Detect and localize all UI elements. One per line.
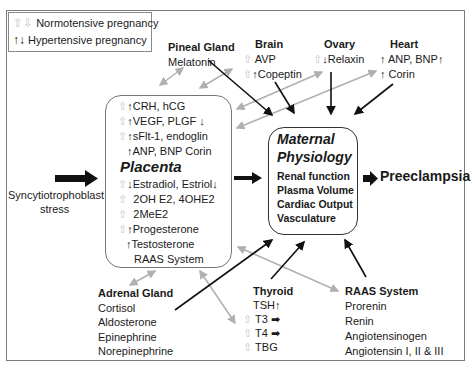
adrenal-cortisol: Cortisol	[98, 302, 135, 315]
hollow-up-arrow-icon: ⇧	[313, 53, 322, 65]
solid-up-arrow-icon: ↑	[380, 53, 386, 65]
stress-label-line2: stress	[40, 203, 69, 216]
preeclampsia-arrow	[363, 171, 378, 186]
maternal-plasma: Plasma Volume	[277, 184, 354, 197]
solid-up-arrow-icon: ↑	[380, 68, 386, 80]
brain-copeptin: ⇧↑Copeptin	[243, 68, 302, 81]
hollow-up-arrow-icon: ⇧	[118, 208, 127, 220]
heart-maternal-arrow	[355, 84, 393, 114]
placenta-vegf-plgf: ⇧↑VEGF, PLGF ↓	[118, 115, 205, 128]
adrenal-aldosterone: Aldosterone	[98, 316, 157, 329]
solid-down-arrow-icon: ↓	[212, 178, 218, 190]
hollow-up-arrow-icon: ⇧	[118, 178, 127, 190]
preeclampsia-label: Preeclampsia	[380, 170, 470, 183]
legend-normotensive: ⇧⇩ Normotensive pregnancy	[13, 17, 158, 29]
hollow-up-arrow-icon: ⇧	[243, 68, 252, 80]
pineal-placenta-arrow	[160, 68, 183, 85]
hollow-up-arrow-icon: ⇧	[118, 193, 127, 205]
maternal-title-1: Maternal	[277, 133, 335, 146]
raas-renin: Renin	[345, 315, 374, 328]
placenta-anp-bnp-corin: ↑ANP, BNP Corin	[127, 145, 212, 158]
heart-corin: ↑ Corin	[380, 68, 415, 81]
adrenal-epinephrine: Epinephrine	[98, 331, 157, 344]
placenta-maternal-arrow	[234, 172, 262, 184]
solid-up-arrow-icon: ↑	[438, 53, 444, 65]
legend: ⇧⇩ Normotensive pregnancy ↑↓ Hypertensiv…	[8, 12, 152, 52]
maternal-renal: Renal function	[277, 170, 350, 183]
adrenal-placenta-arrow	[130, 271, 155, 285]
raas-angiotensin: Angiotensin I, II & III	[345, 345, 443, 358]
hollow-up-arrow-icon: ⇧	[118, 100, 127, 112]
maternal-vasculature: Vasculature	[277, 212, 336, 225]
solid-up-down-arrow-icon: ↑↓	[13, 33, 25, 47]
raas-title: RAAS System	[345, 285, 418, 298]
hollow-up-arrow-icon: ⇧	[243, 327, 252, 339]
hollow-up-arrow-icon: ⇧	[243, 341, 252, 353]
hollow-up-arrow-icon: ⇧	[243, 53, 252, 65]
maternal-title-2: Physiology	[277, 151, 352, 164]
raas-prorenin: Prorenin	[345, 300, 387, 313]
thyroid-t3: ⇧ T3 ➡	[243, 313, 280, 326]
adrenal-title: Adrenal Gland	[98, 287, 173, 300]
placenta-title: Placenta	[120, 160, 182, 173]
ovary-title: Ovary	[324, 38, 355, 51]
brain-avp: ⇧ AVP	[243, 53, 276, 66]
thyroid-title: Thyroid	[253, 285, 293, 298]
placenta-2mee2: ⇧ 2MeE2	[118, 208, 168, 221]
solid-up-arrow-icon: ↑	[275, 299, 281, 311]
heart-title: Heart	[390, 38, 418, 51]
maternal-cardiac: Cardiac Output	[277, 198, 353, 211]
stress-label-line1: Syncytiotrophoblast	[8, 189, 104, 202]
pineal-title: Pineal Gland	[168, 41, 235, 54]
raas-maternal-arrow	[345, 240, 366, 277]
placenta-testosterone: ↑Testosterone	[126, 238, 194, 251]
raas-angiotensinogen: Angiotensinogen	[345, 330, 427, 343]
thyroid-t4: ⇧ T4 ➡	[243, 327, 280, 340]
hollow-up-down-arrow-icon: ⇧⇩	[13, 16, 33, 30]
right-arrow-icon: ➡	[271, 327, 280, 339]
pineal-melatonin: Melatonin	[168, 56, 216, 69]
placenta-estradiol-estriol: ⇧↓Estradiol, Estriol↓	[118, 178, 218, 191]
hollow-up-arrow-icon: ⇧	[118, 115, 127, 127]
placenta-2oh-4ohe2: ⇧ 2OH E2, 4OHE2	[118, 193, 215, 206]
stress-arrow	[55, 170, 98, 187]
placenta-raas: RAAS System	[134, 253, 204, 266]
placenta-crh-hcg: ⇧↑CRH, hCG	[118, 100, 185, 113]
thyroid-tbg: ⇧ TBG	[243, 341, 278, 354]
heart-anp-bnp: ↑ ANP, BNP↑	[380, 53, 443, 66]
legend-hypertensive: ↑↓ Hypertensive pregnancy	[13, 34, 147, 46]
right-arrow-icon: ➡	[271, 313, 280, 325]
placenta-progesterone: ⇧↑Progesterone	[118, 223, 199, 236]
placenta-sflt1-endoglin: ⇧↑sFlt-1, endoglin	[118, 130, 208, 143]
thyroid-tsh: TSH↑	[253, 299, 281, 312]
brain-placenta-arrow	[200, 69, 232, 88]
hollow-up-arrow-icon: ⇧	[243, 313, 252, 325]
brain-title: Brain	[255, 38, 283, 51]
hollow-up-arrow-icon: ⇧	[118, 130, 127, 142]
adrenal-norepinephrine: Norepinephrine	[98, 345, 173, 358]
ovary-relaxin: ⇧↓Relaxin	[313, 53, 364, 66]
solid-down-arrow-icon: ↓	[199, 115, 205, 127]
hollow-up-arrow-icon: ⇧	[118, 223, 127, 235]
